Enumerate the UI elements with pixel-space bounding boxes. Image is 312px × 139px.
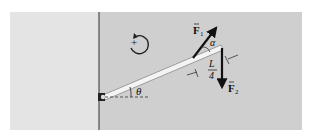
wall-region <box>10 12 99 130</box>
alpha-label: α <box>210 37 216 48</box>
svg-text:F: F <box>193 24 200 36</box>
length-numerator: L <box>208 58 215 69</box>
rotation-sign-label: + <box>131 36 137 48</box>
svg-text:2: 2 <box>235 88 239 96</box>
theta-label: θ <box>136 85 142 97</box>
svg-text:F: F <box>228 82 235 94</box>
pivot-icon <box>98 93 105 101</box>
length-denominator: 4 <box>209 70 214 81</box>
rod-force-diagram: + θ α F 1 F 2 L 4 <box>0 0 312 139</box>
svg-text:1: 1 <box>200 30 204 38</box>
